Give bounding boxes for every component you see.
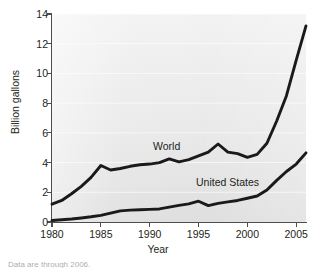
chart-figure: 02468101214 198019851990199520002005 Wor… [0,0,316,268]
data-lines-layer [0,0,316,268]
x-axis-title: Year [0,243,316,255]
caption-fragment: Data are through 2006. [8,261,90,268]
series-line-world [52,26,306,204]
y-axis-title: Billion gallons [9,52,21,152]
gridlines [52,14,306,192]
series-label-united-states: United States [196,176,259,188]
series-label-world: World [153,140,180,152]
